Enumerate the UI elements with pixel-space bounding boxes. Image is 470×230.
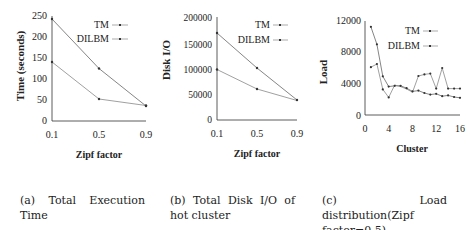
svg-text:0: 0	[356, 110, 361, 121]
chart-load-distribution: Load 0 4000 8000 12000 0 4 8 12 16 Clust…	[310, 0, 470, 170]
svg-text:0.1: 0.1	[211, 128, 224, 139]
legend: TM DILBM	[388, 25, 438, 51]
svg-text:0: 0	[207, 115, 212, 125]
x-ticks: 0.1 0.5 0.9	[211, 128, 304, 139]
svg-text:150: 150	[32, 52, 47, 63]
svg-text:TM: TM	[405, 25, 420, 36]
x-ticks: 0.1 0.5 0.9	[46, 129, 153, 140]
y-ticks: 0 4000 8000 12000	[336, 15, 361, 121]
series-dilbm-line	[371, 64, 460, 97]
svg-text:8: 8	[410, 123, 415, 134]
svg-text:100000: 100000	[184, 65, 213, 75]
svg-text:TM: TM	[255, 19, 270, 30]
x-axis-label: Cluster	[396, 143, 428, 154]
svg-text:200000: 200000	[184, 13, 213, 23]
y-axis-label: Disk I/O	[160, 40, 172, 80]
svg-text:4: 4	[386, 123, 391, 134]
y-ticks: 0 50 100 150 200 250	[32, 10, 47, 126]
svg-text:0.5: 0.5	[93, 129, 106, 140]
svg-text:50: 50	[37, 94, 47, 105]
svg-text:Time (seconds): Time (seconds)	[14, 30, 27, 101]
svg-text:16: 16	[455, 123, 465, 134]
data-markers	[370, 26, 461, 99]
y-axis-label: Load	[317, 60, 329, 84]
svg-text:DILBM: DILBM	[77, 33, 109, 44]
svg-text:50000: 50000	[188, 90, 212, 100]
svg-text:250: 250	[32, 10, 47, 21]
caption-b: (b) Total Disk I/O of hot cluster	[170, 193, 295, 223]
chart-total-disk-io: Disk I/O 0 50000 100000 150000 200000 0.…	[150, 0, 320, 170]
x-ticks: 0 4 8 12 16	[363, 123, 466, 134]
svg-text:150000: 150000	[184, 40, 213, 50]
data-markers	[51, 18, 147, 107]
svg-text:DILBM: DILBM	[238, 34, 270, 45]
svg-text:0.9: 0.9	[291, 128, 304, 139]
svg-text:0: 0	[363, 123, 368, 134]
series-dilbm-line	[217, 70, 297, 101]
svg-text:DILBM: DILBM	[388, 40, 420, 51]
svg-text:100: 100	[32, 73, 47, 84]
svg-text:12: 12	[431, 123, 441, 134]
chart-total-execution-time: Time (seconds) 0 50 100 150 200 250 0.1 …	[0, 0, 160, 170]
svg-text:TM: TM	[94, 19, 109, 30]
legend: TM DILBM	[238, 19, 288, 45]
svg-text:4000: 4000	[341, 78, 361, 89]
legend: TM DILBM	[77, 19, 128, 44]
y-axis-label: Time (seconds)	[14, 30, 27, 101]
caption-a: (a) Total Execution Time	[20, 193, 145, 223]
svg-text:0.5: 0.5	[251, 128, 264, 139]
series-tm-line	[371, 27, 460, 98]
svg-text:12000: 12000	[336, 15, 361, 26]
svg-text:0: 0	[42, 115, 47, 126]
x-axis-label: Zipf factor	[234, 148, 281, 159]
caption-c: (c) Load distribution(Zipf factor=0.5)	[322, 193, 447, 230]
svg-text:200: 200	[32, 31, 47, 42]
svg-text:8000: 8000	[341, 46, 361, 57]
svg-text:0.1: 0.1	[46, 129, 59, 140]
y-ticks: 0 50000 100000 150000 200000	[184, 13, 213, 125]
x-axis-label: Zipf factor	[76, 149, 123, 160]
